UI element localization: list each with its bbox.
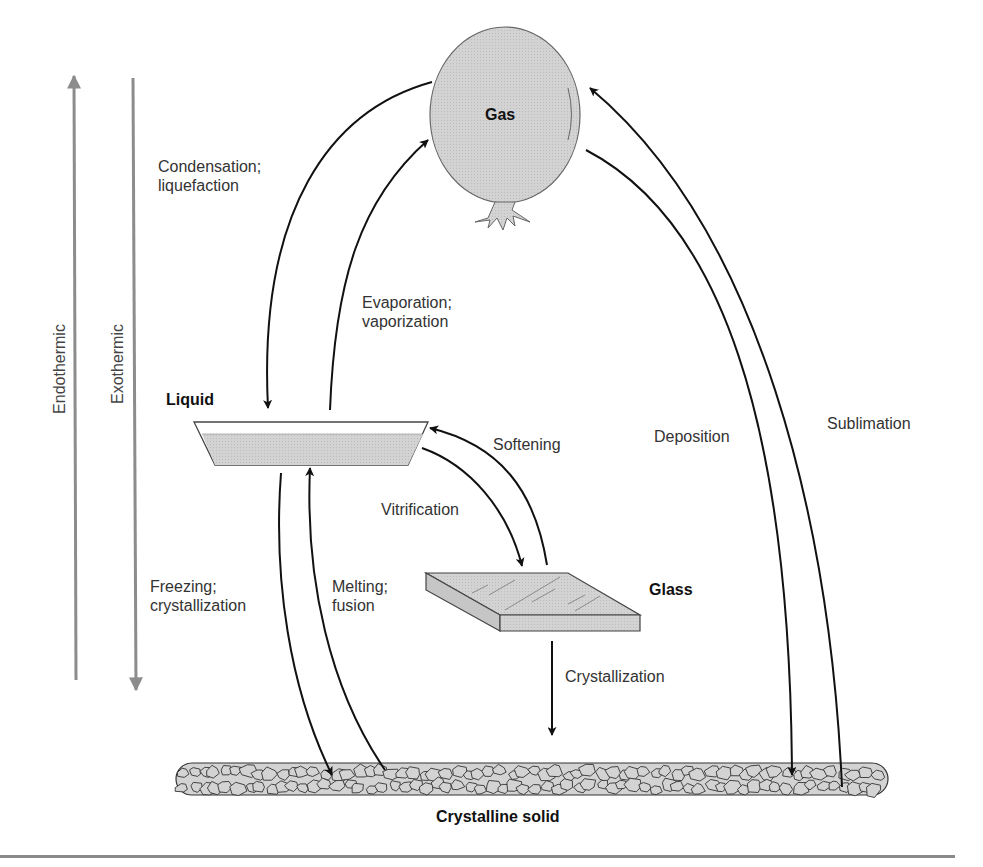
softening-label: Softening <box>493 435 561 454</box>
sublimation-label: Sublimation <box>827 414 911 433</box>
liquid-container-icon <box>194 422 428 465</box>
bottom-divider <box>0 855 955 858</box>
vitrification-label: Vitrification <box>381 500 459 519</box>
melting-label: Melting; fusion <box>332 577 388 615</box>
glass-slab-icon <box>426 573 640 631</box>
endothermic-arrow <box>74 76 76 680</box>
crystallization-label: Crystallization <box>565 667 665 686</box>
endothermic-label: Endothermic <box>51 319 69 419</box>
glass-label: Glass <box>649 581 693 599</box>
phase-diagram <box>0 0 983 867</box>
evaporation-label: Evaporation; vaporization <box>362 293 452 331</box>
exothermic-arrow <box>133 78 136 690</box>
liquid-label: Liquid <box>166 391 214 409</box>
exothermic-label: Exothermic <box>109 314 127 414</box>
condensation-label: Condensation; liquefaction <box>158 157 261 195</box>
crystalline-solid-label: Crystalline solid <box>436 808 560 826</box>
melting-arrow <box>309 468 385 770</box>
deposition-label: Deposition <box>654 427 730 446</box>
gas-label: Gas <box>485 106 515 124</box>
condensation-arrow <box>267 82 432 408</box>
crystalline-solid-icon <box>175 763 888 798</box>
gas-balloon-icon <box>430 27 580 230</box>
evaporation-arrow <box>330 140 428 410</box>
freezing-label: Freezing; crystallization <box>150 577 246 615</box>
